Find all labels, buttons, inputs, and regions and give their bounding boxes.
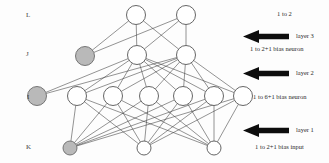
connection-line [77,99,205,145]
connection-line [144,61,176,89]
neuron-node [104,87,123,106]
layer2-range-label: 1 to 6+1 bias neuron [253,93,307,100]
bias-node [76,47,95,66]
connection-line [85,60,129,90]
connection-line [150,102,207,144]
neuron-node [137,141,151,155]
connection-line [71,105,76,141]
neuron-node [68,87,87,106]
connection-line [121,100,207,144]
output-range-label: 1 to 2 [277,10,292,17]
neuron-node [205,87,224,106]
connection-line [77,99,234,146]
connection-edges [46,19,239,146]
layer3-arrow-icon [243,30,289,43]
neuron-node [207,141,221,155]
connection-line [145,59,205,91]
neuron-node [177,46,196,65]
connection-line [191,63,208,88]
layer1-label: layer 1 [296,126,314,133]
layer-letter-j: J [26,50,29,58]
network-graphic [0,0,329,163]
neural-network-diagram: L J I K 1 to 2 layer 3 1 to 2+1 bias neu… [0,0,329,163]
neuron-node [177,6,196,25]
layer-letter-l: L [26,11,31,19]
layer3-range-label: 1 to 2+1 bias neuron [250,45,304,52]
bias-node [63,141,77,155]
neuron-node [140,87,159,106]
neuron-node [174,87,193,106]
layer3-label: layer 3 [296,32,314,39]
connection-line [145,105,148,141]
layer-letter-i: I [27,93,30,101]
layer1-range-label: 1 to 2+1 bias input [255,143,304,150]
connection-line [86,58,177,92]
connection-line [140,64,147,87]
neuron-node [128,46,147,65]
layer1-arrow-icon [243,124,289,137]
bias-node [28,87,47,106]
neuron-node [234,87,253,106]
connection-line [184,64,186,86]
layer2-arrow-icon [243,67,289,80]
connection-line [217,104,238,142]
network-nodes [28,6,253,156]
connection-line [74,103,106,142]
layer-letter-k: K [26,143,31,151]
connection-line [136,25,137,46]
neuron-node [127,6,146,25]
layer2-label: layer 2 [296,69,314,76]
